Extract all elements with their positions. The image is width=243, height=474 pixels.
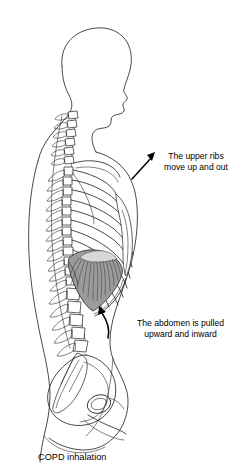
abdomen-annotation-line1: The abdomen is pulled (118, 318, 243, 329)
abdomen-annotation: The abdomen is pulled upward and inward (118, 318, 243, 341)
clavicle-scapula (72, 161, 120, 224)
body-outline (29, 28, 138, 462)
upper-ribs-annotation-line1: The upper ribs (150, 151, 242, 162)
abdomen-annotation-line2: upward and inward (118, 329, 243, 340)
copd-inhalation-illustration (0, 0, 243, 474)
upper-ribs-annotation: The upper ribs move up and out (150, 151, 242, 174)
sacrum (53, 353, 87, 413)
arrow-curved-up-icon (98, 306, 109, 338)
figure-caption: COPD inhalation (38, 452, 106, 462)
upper-ribs-annotation-line2: move up and out (150, 162, 242, 173)
